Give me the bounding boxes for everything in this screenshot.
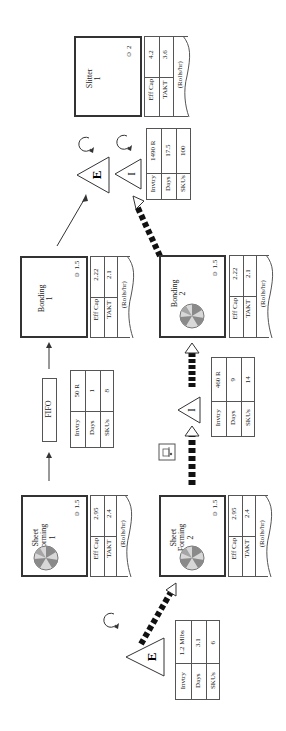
operator-count: ☺ 1.5 — [212, 497, 219, 521]
forklift-icon — [158, 443, 176, 461]
eff-cap-value: 4.2 — [148, 44, 155, 66]
operator-icon: ☺ — [125, 51, 133, 58]
eff-cap-value: 2.22 — [93, 264, 100, 286]
fifo-lane: FIFO — [42, 378, 57, 442]
eff-cap-label: Eff Cap — [93, 292, 100, 328]
process-name: Bonding 1 — [38, 278, 55, 318]
days-value: 1 — [89, 376, 96, 406]
takt-value: 2.4 — [244, 503, 251, 525]
inventory-table-pre-slitter: Invtry 1490 R Days 17.5 SKUs 100 — [146, 128, 191, 200]
days-label: Days — [230, 400, 237, 436]
push-arrow-icon — [130, 192, 170, 262]
takt-value: 2.1 — [245, 263, 252, 285]
skus-label: SKUs — [210, 663, 217, 699]
wavy-edge — [125, 495, 137, 577]
skus-label: SKUs — [245, 400, 252, 436]
eff-cap-label: Eff Cap — [231, 531, 238, 567]
process-data-table-slitter-1: Eff Cap 4.2 TAKT 3.6 (Rolls/hr) — [144, 36, 188, 117]
invtry-value: 1.2 Mlbs — [179, 624, 186, 662]
days-label: Days — [195, 663, 202, 699]
operator-icon: ☺ — [211, 270, 219, 277]
eff-cap-value: 2.95 — [231, 503, 238, 525]
process-box-bonding-2: Bonding 2 ☺ 1.5 — [159, 255, 226, 338]
eff-cap-label: Eff Cap — [93, 531, 100, 567]
skus-label: SKUs — [180, 167, 187, 201]
process-box-sheet-forming-2: Sheet Forming 2 ☺ 1.5 — [159, 495, 226, 577]
invtry-label: Invtry — [74, 410, 81, 446]
eff-cap-value: 2.22 — [232, 263, 239, 285]
skus-value: 6 — [210, 628, 217, 658]
wavy-edge — [265, 495, 277, 577]
inventory-table-fifo: Invtry 50 R Days 1 SKUs 8 — [70, 370, 114, 448]
process-box-bonding-1: Bonding 1 ☺ 1.5 — [20, 256, 88, 338]
inventory-triangle-icon: E — [75, 155, 115, 195]
skus-value: 8 — [104, 376, 111, 406]
flow-arrow — [44, 452, 54, 482]
operator-count: ☺ 1.5 — [74, 497, 81, 521]
svg-text:E: E — [89, 171, 104, 180]
process-data-table-bonding-1: Eff Cap 2.22 TAKT 2.1 (Rolls/hr) — [90, 256, 130, 338]
takt-label: TAKT — [244, 531, 251, 567]
invtry-value: 1490 R — [150, 132, 157, 170]
process-data-table-sheet-forming-2: Eff Cap 2.95 TAKT 2.4 (Rolls/hr) — [228, 495, 268, 577]
operator-count: ☺ 2 — [126, 42, 133, 62]
inventory-table-raw: Invtry 1.2 Mlbs Days 3.1 SKUs 6 — [175, 620, 220, 700]
svg-text:I: I — [186, 408, 197, 411]
cycle-arrow-icon — [113, 132, 135, 154]
days-value: 17.5 — [165, 136, 172, 166]
process-box-sheet-forming-1: Sheet Forming 1 ☺ 1.5 — [21, 495, 88, 577]
svg-text:I: I — [125, 172, 137, 176]
eff-cap-label: Eff Cap — [148, 72, 155, 108]
push-arrow-icon — [184, 425, 200, 485]
days-value: 9 — [230, 365, 237, 395]
changeover-dial-icon — [179, 303, 205, 329]
cycle-arrow-icon — [75, 134, 97, 156]
operator-icon: ☺ — [73, 510, 81, 517]
invtry-value: 460 R — [215, 365, 222, 395]
inventory-triangle-icon: I — [176, 395, 202, 425]
process-name: Slitter 1 — [86, 58, 103, 98]
operator-count: ☺ 1.5 — [74, 258, 81, 282]
wavy-edge — [183, 36, 195, 117]
fifo-label: FIFO — [45, 387, 53, 431]
operator-count: ☺ 1.5 — [212, 257, 219, 281]
days-label: Days — [89, 410, 96, 446]
inventory-table-pre-bonding-2: Invtry 460 R Days 9 SKUs 14 — [211, 357, 255, 437]
cycle-arrow-icon — [100, 610, 122, 632]
push-arrow-icon — [184, 342, 200, 387]
wavy-edge — [266, 255, 278, 338]
operator-icon: ☺ — [73, 271, 81, 278]
skus-value: 14 — [245, 365, 252, 395]
operator-icon: ☺ — [211, 510, 219, 517]
takt-label: TAKT — [106, 531, 113, 567]
takt-label: TAKT — [106, 292, 113, 328]
inventory-triangle-icon: E — [124, 636, 164, 678]
invtry-label: Invtry — [215, 400, 222, 436]
svg-text:E: E — [144, 653, 159, 662]
eff-cap-label: Eff Cap — [232, 291, 239, 327]
flow-arrow — [44, 342, 54, 370]
takt-label: TAKT — [245, 291, 252, 327]
eff-cap-value: 2.95 — [93, 503, 100, 525]
changeover-dial-icon — [179, 545, 205, 571]
invtry-value: 50 R — [74, 376, 81, 406]
flow-arrow — [55, 190, 115, 250]
takt-value: 2.1 — [106, 264, 113, 286]
wavy-edge — [127, 256, 139, 338]
takt-value: 2.4 — [106, 503, 113, 525]
changeover-dial-icon — [33, 545, 59, 571]
skus-value: 100 — [180, 136, 187, 166]
process-data-table-bonding-2: Eff Cap 2.22 TAKT 2.1 (Rolls/hr) — [229, 255, 269, 338]
process-box-slitter-1: Slitter 1 ☺ 2 — [74, 36, 142, 117]
inventory-triangle-icon: I — [113, 157, 143, 191]
takt-value: 3.6 — [162, 44, 169, 66]
invtry-label: Invtry — [180, 663, 187, 699]
days-value: 3.1 — [195, 628, 202, 658]
takt-label: TAKT — [162, 72, 169, 108]
process-data-table-sheet-forming-1: Eff Cap 2.95 TAKT 2.4 (Rolls/hr) — [90, 495, 128, 577]
skus-label: SKUs — [104, 410, 111, 446]
